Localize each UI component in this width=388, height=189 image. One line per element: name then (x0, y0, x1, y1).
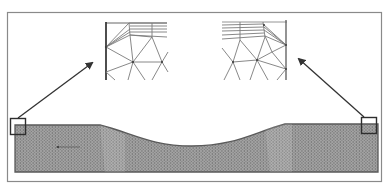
left-arrow (18, 63, 92, 118)
mesh-body (15, 124, 378, 172)
mesh-internal-node (57, 146, 59, 148)
left-inset-mesh-detail (105, 22, 168, 80)
right-arrow (299, 59, 364, 117)
right-inset-mesh-detail (222, 20, 287, 80)
mesh-diagram (0, 0, 388, 189)
